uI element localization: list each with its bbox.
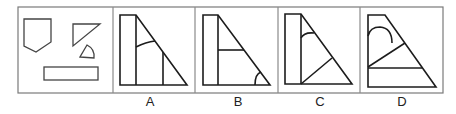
option-b-label[interactable]: B: [234, 94, 243, 109]
sector-piece: [80, 45, 94, 58]
option-d-label[interactable]: D: [397, 94, 406, 109]
option-b-figure[interactable]: [203, 15, 270, 85]
option-c-label[interactable]: C: [315, 94, 324, 109]
triangle-piece: [73, 24, 100, 46]
option-c-figure[interactable]: [285, 14, 352, 84]
option-a-label[interactable]: A: [146, 94, 155, 109]
puzzle-figure: [0, 0, 456, 114]
option-a-figure[interactable]: [120, 15, 187, 85]
given-pieces-panel: [24, 19, 100, 80]
rectangle-piece: [44, 67, 98, 80]
pentagon-piece: [24, 19, 51, 52]
option-d-figure[interactable]: [368, 15, 436, 87]
